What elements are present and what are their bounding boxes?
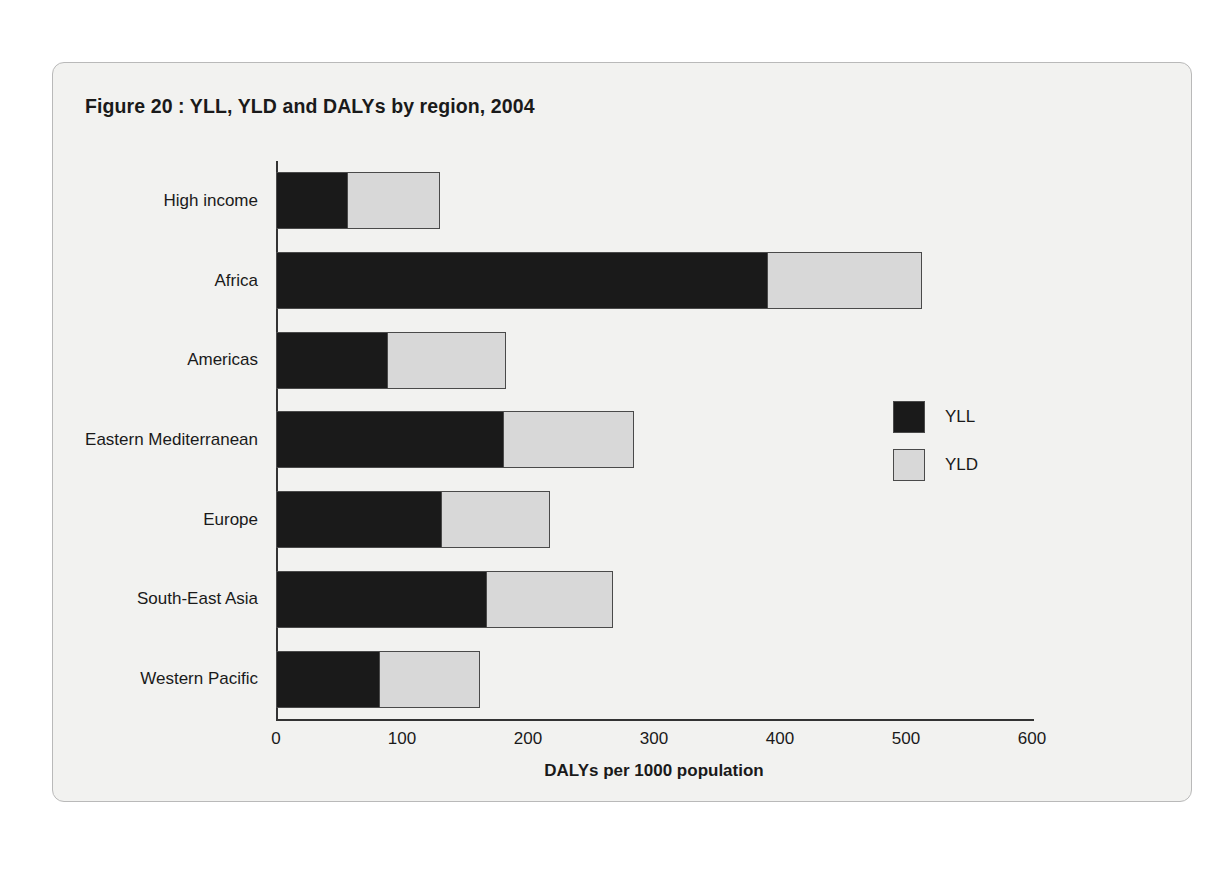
bar-row: Europe	[276, 492, 1032, 547]
x-tick-label: 100	[388, 729, 416, 749]
bar-segment-yll	[277, 412, 504, 467]
bar-row: Africa	[276, 253, 1032, 308]
x-tick-label: 400	[766, 729, 794, 749]
legend-item: YLL	[893, 401, 978, 433]
x-tick-label: 600	[1018, 729, 1046, 749]
bar-segment-yld	[767, 253, 921, 308]
stacked-bar	[276, 411, 634, 468]
bar-segment-yld	[441, 492, 549, 547]
legend-item: YLD	[893, 449, 978, 481]
stacked-bar	[276, 651, 480, 708]
bar-segment-yld	[486, 572, 612, 627]
bar-segment-yld	[387, 333, 505, 388]
bar-segment-yld	[379, 652, 479, 707]
legend-swatch-yll	[893, 401, 925, 433]
page-title: Figure 20 : YLL, YLD and DALYs by region…	[85, 95, 535, 118]
bar-segment-yll	[277, 173, 348, 228]
category-label: Europe	[203, 510, 258, 530]
bar-segment-yll	[277, 333, 388, 388]
stacked-bar	[276, 252, 922, 309]
chart-legend: YLLYLD	[893, 401, 978, 497]
figure-page: Figure 20 : YLL, YLD and DALYs by region…	[0, 0, 1231, 874]
bar-segment-yll	[277, 253, 768, 308]
stacked-bar	[276, 332, 506, 389]
category-label: Western Pacific	[140, 669, 258, 689]
bar-row: Americas	[276, 333, 1032, 388]
bar-segment-yld	[503, 412, 633, 467]
x-axis-title: DALYs per 1000 population	[276, 761, 1032, 781]
legend-swatch-yld	[893, 449, 925, 481]
figure-card: Figure 20 : YLL, YLD and DALYs by region…	[52, 62, 1192, 802]
legend-label: YLD	[945, 455, 978, 475]
category-label: Eastern Mediterranean	[85, 430, 258, 450]
bar-segment-yld	[347, 173, 439, 228]
category-label: Africa	[215, 271, 258, 291]
category-label: South-East Asia	[137, 589, 258, 609]
bar-row: Western Pacific	[276, 652, 1032, 707]
x-tick-label: 200	[514, 729, 542, 749]
bar-row: South-East Asia	[276, 572, 1032, 627]
legend-label: YLL	[945, 407, 975, 427]
stacked-bar	[276, 172, 440, 229]
bar-segment-yll	[277, 572, 487, 627]
x-axis-ticks: 0100200300400500600	[276, 721, 1032, 755]
bar-row: High income	[276, 173, 1032, 228]
stacked-bar	[276, 571, 613, 628]
category-label: Americas	[187, 350, 258, 370]
bar-segment-yll	[277, 652, 380, 707]
x-tick-label: 500	[892, 729, 920, 749]
category-label: High income	[164, 191, 259, 211]
bar-segment-yll	[277, 492, 442, 547]
x-tick-label: 0	[271, 729, 280, 749]
stacked-bar	[276, 491, 550, 548]
x-tick-label: 300	[640, 729, 668, 749]
